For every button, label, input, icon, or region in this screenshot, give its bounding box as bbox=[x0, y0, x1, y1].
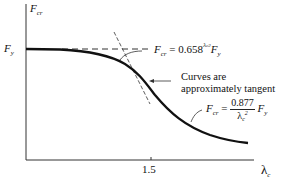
y-axis-label: Fcr bbox=[30, 3, 43, 14]
elastic-fraction: 0.877 λc2 bbox=[230, 98, 255, 121]
inelastic-equation: Fcr = 0.658λc2Fy bbox=[154, 44, 221, 55]
leader-elastic bbox=[191, 110, 202, 122]
x-tick-label-1-5: 1.5 bbox=[142, 164, 156, 175]
tangent-note: Curves are approximately tangent bbox=[181, 71, 275, 95]
leader-inelastic bbox=[120, 51, 142, 60]
fy-tick-label: Fy bbox=[4, 43, 14, 54]
elastic-equation: Fcr = 0.877 λc2 Fy bbox=[206, 98, 267, 121]
critical-stress-curve bbox=[26, 49, 248, 143]
arrowhead-icon bbox=[149, 79, 154, 83]
x-axis-label: λc bbox=[261, 163, 270, 176]
